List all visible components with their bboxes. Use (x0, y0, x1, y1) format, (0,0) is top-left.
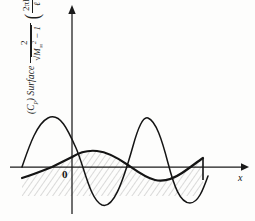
thickness-numerator: 2πh (22, 0, 31, 13)
y-axis-label-numerator: (Cp) Surface (26, 66, 38, 114)
fraction-numerator: 2 (20, 39, 29, 48)
x-axis-label: x (238, 172, 242, 183)
prandtl-glauert-fraction: 2 √M∞2 − 1 (20, 23, 44, 63)
paren-open: ( (24, 14, 41, 19)
cp-subscript: p (32, 101, 38, 104)
fraction-denominator: √M∞2 − 1 (31, 23, 44, 63)
y-axis-label: (Cp) Surface 2 √M∞2 − 1 ( 2πh ℓ ) (12, 10, 52, 114)
wall-hatching (12, 140, 212, 198)
thickness-ratio-group: ( 2πh ℓ ) (22, 0, 42, 20)
thickness-denominator: ℓ (33, 0, 42, 8)
thickness-ratio-fraction: 2πh ℓ (22, 0, 42, 13)
origin-label: 0 (62, 168, 68, 180)
figure-root: (Cp) Surface 2 √M∞2 − 1 ( 2πh ℓ ) 0 x (0, 0, 255, 221)
